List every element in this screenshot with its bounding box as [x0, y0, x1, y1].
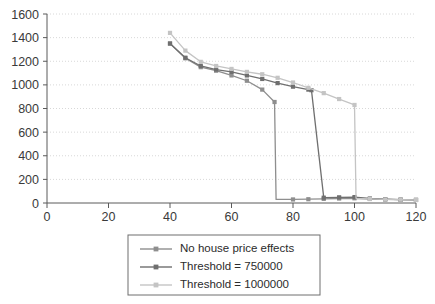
data-point-marker — [229, 67, 233, 71]
x-axis-ticks: 020406080100120 — [44, 203, 427, 224]
line-chart: 02004006008001000120014001600 0204060801… — [0, 0, 435, 304]
data-point-marker — [306, 197, 310, 201]
x-tick-label: 80 — [286, 210, 300, 224]
legend-marker-swatch — [154, 283, 159, 288]
data-series — [168, 31, 418, 202]
data-point-marker — [352, 103, 356, 107]
x-tick-label: 0 — [44, 210, 51, 224]
data-point-marker — [276, 81, 280, 85]
y-tick-label: 0 — [32, 197, 39, 211]
y-tick-label: 200 — [18, 173, 39, 187]
y-tick-label: 1000 — [11, 78, 39, 92]
data-point-marker — [245, 70, 249, 74]
y-tick-label: 1600 — [11, 8, 39, 22]
x-tick-label: 20 — [102, 210, 116, 224]
data-point-marker — [414, 198, 418, 202]
data-point-marker — [368, 197, 372, 201]
data-point-marker — [337, 195, 341, 199]
data-point-marker — [272, 100, 276, 104]
gridlines — [47, 14, 416, 179]
data-point-marker — [199, 60, 203, 64]
series-1 — [168, 41, 418, 202]
series-line — [170, 33, 416, 200]
data-point-marker — [276, 76, 280, 80]
legend-marker-swatch — [154, 247, 159, 252]
legend-marker-swatch — [154, 265, 159, 270]
data-point-marker — [183, 49, 187, 53]
legend-entry-label: Threshold = 750000 — [180, 260, 283, 272]
x-tick-label: 40 — [163, 210, 177, 224]
data-point-marker — [322, 196, 326, 200]
y-tick-label: 800 — [18, 102, 39, 116]
legend-entry-label: No house price effects — [180, 242, 294, 254]
series-2 — [168, 31, 418, 202]
chart-container: 02004006008001000120014001600 0204060801… — [0, 0, 435, 304]
data-point-marker — [337, 97, 341, 101]
data-point-marker — [383, 197, 387, 201]
y-axis-ticks: 02004006008001000120014001600 — [11, 8, 47, 211]
data-point-marker — [260, 72, 264, 76]
chart-legend: No house price effectsThreshold = 750000… — [128, 235, 320, 295]
y-tick-label: 400 — [18, 149, 39, 163]
data-point-marker — [260, 88, 264, 92]
data-point-marker — [168, 41, 172, 45]
x-tick-label: 60 — [225, 210, 239, 224]
data-point-marker — [199, 64, 203, 68]
y-tick-label: 1200 — [11, 55, 39, 69]
data-point-marker — [245, 79, 249, 83]
data-point-marker — [306, 86, 310, 90]
data-point-marker — [260, 77, 264, 81]
series-line — [170, 44, 416, 200]
data-point-marker — [291, 85, 295, 89]
y-tick-label: 600 — [18, 126, 39, 140]
x-tick-label: 120 — [406, 210, 427, 224]
data-point-marker — [399, 198, 403, 202]
data-point-marker — [322, 91, 326, 95]
data-point-marker — [291, 197, 295, 201]
y-tick-label: 1400 — [11, 31, 39, 45]
data-point-marker — [291, 80, 295, 84]
x-tick-label: 100 — [344, 210, 365, 224]
data-point-marker — [168, 31, 172, 35]
data-point-marker — [214, 64, 218, 68]
series-0 — [168, 41, 418, 202]
data-point-marker — [183, 56, 187, 60]
legend-entry-label: Threshold = 1000000 — [180, 278, 289, 290]
